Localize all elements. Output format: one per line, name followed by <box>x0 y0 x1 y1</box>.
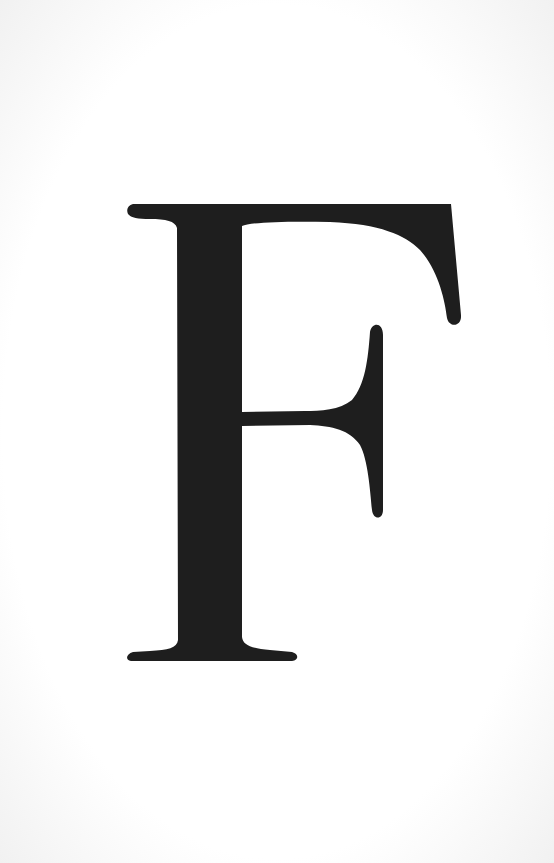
page: F <box>0 0 554 863</box>
letter-f-glyph <box>0 0 554 863</box>
